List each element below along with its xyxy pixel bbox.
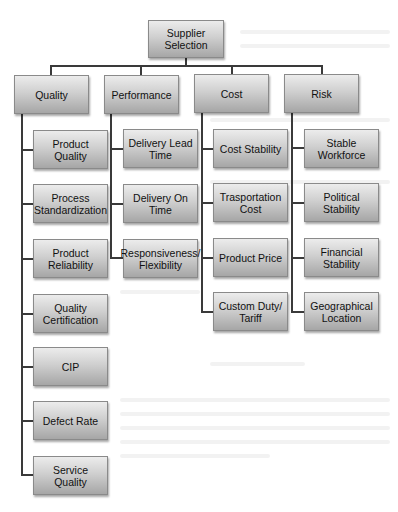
node-label: Quality [35, 89, 68, 101]
node-label: Responsiveness/ Flexibility [121, 247, 201, 271]
category-node-risk: Risk [284, 74, 359, 113]
node-label: Delivery On Time [126, 192, 195, 216]
root-node-supplier-selection: Supplier Selection [148, 20, 224, 58]
cost-branch [201, 202, 213, 204]
criterion-node-process-standardization: Process Standardization [33, 184, 108, 223]
criterion-node-stable-workforce: Stable Workforce [304, 129, 379, 168]
node-label: CIP [62, 361, 80, 373]
quality-branch [21, 420, 33, 422]
criterion-node-financial-stability: Financial Stability [304, 238, 379, 277]
node-label: Product Reliability [36, 247, 105, 271]
quality-branch [21, 149, 33, 151]
node-label: Risk [311, 88, 331, 100]
risk-branch [291, 202, 304, 204]
node-label: Political Stability [307, 191, 376, 215]
performance-trunk [110, 114, 112, 259]
criterion-node-transportation-cost: Trasportation Cost [213, 183, 288, 222]
quality-branch [21, 313, 33, 315]
node-label: Delivery Lead Time [126, 137, 195, 161]
criterion-node-product-reliability: Product Reliability [33, 239, 108, 278]
node-label: Performance [111, 89, 171, 101]
risk-branch [291, 257, 304, 259]
criterion-node-defect-rate: Defect Rate [33, 401, 108, 440]
criterion-node-delivery-lead-time: Delivery Lead Time [123, 129, 198, 168]
node-label: Defect Rate [43, 415, 98, 427]
criterion-node-product-quality: Product Quality [33, 130, 108, 169]
cost-trunk [201, 113, 203, 313]
node-label: Stable Workforce [307, 137, 376, 161]
node-label: Service Quality [36, 464, 105, 488]
node-label: Cost [221, 88, 243, 100]
node-label: Cost Stability [220, 143, 281, 155]
quality-branch [21, 258, 33, 260]
criterion-node-service-quality: Service Quality [33, 456, 108, 495]
node-label: Process Standardization [34, 192, 107, 216]
category-node-performance: Performance [104, 75, 179, 114]
risk-branch [291, 311, 304, 313]
node-label: Custom Duty/ Tariff [216, 300, 285, 324]
node-label: Supplier Selection [151, 27, 221, 51]
criterion-node-quality-certification: Quality Certification [33, 294, 108, 333]
node-label: Product Quality [36, 138, 105, 162]
category-node-cost: Cost [194, 74, 269, 113]
node-label: Financial Stability [307, 246, 376, 270]
node-label: Trasportation Cost [216, 191, 285, 215]
quality-drop [50, 65, 52, 75]
criterion-node-cost-stability: Cost Stability [213, 129, 288, 168]
quality-branch [21, 366, 33, 368]
performance-branch [110, 203, 123, 205]
risk-trunk [291, 113, 293, 313]
node-label: Quality Certification [36, 302, 105, 326]
criterion-node-custom-duty-tariff: Custom Duty/ Tariff [213, 292, 288, 331]
node-label: Product Price [219, 252, 282, 264]
cost-branch [201, 257, 213, 259]
criterion-node-delivery-on-time: Delivery On Time [123, 184, 198, 223]
category-node-quality: Quality [14, 75, 89, 114]
cost-branch [201, 148, 213, 150]
criterion-node-geographical-location: Geographical Location [304, 292, 379, 331]
category-bus [50, 65, 323, 67]
criterion-node-cip: CIP [33, 347, 108, 386]
performance-drop [140, 65, 142, 75]
risk-branch [291, 147, 304, 149]
performance-branch [110, 148, 123, 150]
criterion-node-responsiveness-flexibility: Responsiveness/ Flexibility [123, 239, 198, 278]
criterion-node-political-stability: Political Stability [304, 183, 379, 222]
cost-branch [201, 311, 213, 313]
criterion-node-product-price: Product Price [213, 238, 288, 277]
quality-branch [21, 203, 33, 205]
node-label: Geographical Location [307, 300, 376, 324]
quality-branch [21, 474, 33, 476]
